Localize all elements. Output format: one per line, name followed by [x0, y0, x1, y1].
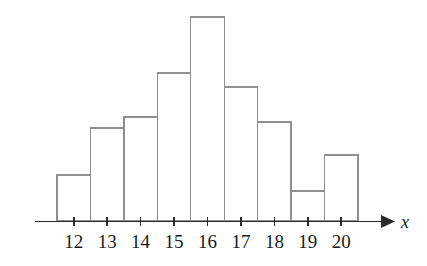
histogram-bar: [57, 175, 90, 221]
x-axis-labels-group: 121314151617181920: [64, 231, 351, 252]
x-axis-tick-label: 14: [131, 231, 151, 252]
x-axis-tick-label: 17: [231, 231, 250, 252]
histogram-bar: [157, 73, 190, 221]
bars-group: [57, 17, 358, 221]
x-axis-name-label: x: [400, 212, 409, 232]
histogram-bar: [325, 155, 358, 221]
histogram-bar: [191, 17, 224, 221]
x-axis-tick-label: 16: [198, 231, 217, 252]
histogram-plot: 121314151617181920 x: [0, 0, 427, 266]
x-axis-tick-label: 19: [298, 231, 317, 252]
x-axis-tick-label: 12: [64, 231, 83, 252]
x-axis-tick-label: 18: [265, 231, 284, 252]
x-axis-tick-label: 20: [332, 231, 351, 252]
histogram-bar: [124, 117, 157, 221]
histogram-bar: [258, 122, 291, 221]
histogram-bar: [291, 191, 324, 221]
histogram-bar: [224, 87, 257, 221]
histogram-figure: 121314151617181920 x: [0, 0, 427, 266]
histogram-bar: [90, 128, 123, 221]
x-axis-tick-label: 15: [165, 231, 184, 252]
x-axis-tick-label: 13: [98, 231, 117, 252]
right-arrow-icon: [381, 215, 395, 228]
